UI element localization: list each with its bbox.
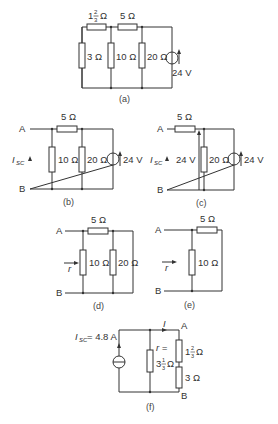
label-r2: 5 Ω [120, 10, 135, 21]
resistor-10-ohm [189, 250, 195, 275]
resistor-5-ohm [197, 227, 217, 233]
caption-b: (b) [63, 197, 74, 207]
svg-text:Ω: Ω [100, 10, 107, 21]
label-r3: 3 Ω [87, 51, 102, 62]
svg-text:r: r [165, 262, 169, 273]
svg-text:A: A [157, 123, 164, 134]
label-r1-whole: 1 [88, 10, 93, 21]
circuit-d: A B r 5 Ω 10 Ω 20 Ω (d) [56, 214, 138, 311]
circuit-c: A B I SC 5 Ω 24 V 20 Ω 24 V (c) [150, 111, 264, 208]
svg-text:24 V: 24 V [176, 154, 196, 165]
resistor-3-ohm [176, 367, 182, 388]
svg-text:I: I [75, 331, 78, 342]
label-r4: 10 Ω [116, 51, 136, 62]
svg-text:r: r [68, 263, 72, 274]
svg-text:20 Ω: 20 Ω [87, 154, 107, 165]
svg-text:20 Ω: 20 Ω [209, 154, 229, 165]
svg-text:SC: SC [16, 160, 25, 166]
svg-text:3: 3 [191, 353, 194, 359]
caption-f: (f) [146, 402, 155, 412]
resistor-5-ohm [175, 126, 195, 132]
circuit-b: A B I SC 5 Ω 10 Ω 20 Ω 24 V (b) [12, 111, 143, 207]
svg-text:5 Ω: 5 Ω [91, 214, 106, 225]
svg-text:B: B [56, 287, 62, 298]
circuit-a: 1 2 3 Ω 5 Ω 3 Ω 10 Ω 20 Ω 24 V (a) [79, 9, 192, 104]
svg-text:10 Ω: 10 Ω [58, 154, 78, 165]
svg-text:3: 3 [156, 358, 161, 369]
caption-e: (e) [184, 300, 195, 310]
resistor-10-ohm [49, 147, 55, 172]
resistor-10-ohm [108, 43, 114, 68]
caption-d: (d) [93, 301, 104, 311]
svg-text:r =: r = [156, 342, 168, 353]
svg-text:3: 3 [94, 17, 98, 23]
svg-text:5 Ω: 5 Ω [61, 111, 76, 122]
svg-text:B: B [157, 184, 163, 195]
resistor-5-ohm [118, 24, 137, 30]
svg-text:5 Ω: 5 Ω [177, 111, 192, 122]
svg-text:= 4.8 A: = 4.8 A [87, 331, 118, 342]
svg-text:I: I [12, 154, 15, 165]
svg-text:Ω: Ω [196, 346, 203, 357]
circuit-e: A B r 5 Ω 10 Ω (e) [155, 213, 222, 310]
svg-text:A: A [155, 224, 162, 235]
svg-text:B: B [155, 285, 161, 296]
resistor-20-ohm [201, 147, 207, 172]
caption-a: (a) [119, 94, 130, 104]
svg-text:2: 2 [94, 9, 98, 15]
resistor-r-3-1-3-ohm [147, 350, 153, 372]
svg-text:B: B [181, 390, 187, 401]
label-r5: 20 Ω [147, 51, 167, 62]
circuit-figure: 1 2 3 Ω 5 Ω 3 Ω 10 Ω 20 Ω 24 V (a) A B I… [0, 0, 278, 424]
svg-text:3: 3 [162, 365, 165, 371]
svg-text:1: 1 [162, 357, 165, 363]
svg-text:Ω: Ω [167, 358, 174, 369]
caption-c: (c) [196, 198, 207, 208]
node-a: A [19, 123, 26, 134]
svg-text:2: 2 [191, 345, 194, 351]
resistor-1-2-3-ohm [176, 340, 182, 362]
resistor-20-ohm [79, 147, 85, 172]
svg-text:A: A [181, 320, 188, 331]
circuit-f: A B I SC = 4.8 A I r = 3 1 3 Ω 1 2 3 Ω 3… [75, 318, 203, 412]
resistor-5-ohm [57, 126, 77, 132]
arrow-icon [172, 260, 177, 264]
resistor-20-ohm [139, 43, 145, 68]
svg-text:I: I [163, 318, 166, 329]
svg-text:24 V: 24 V [123, 154, 143, 165]
resistor-5-ohm [88, 228, 108, 234]
svg-text:5 Ω: 5 Ω [200, 213, 215, 224]
svg-text:24 V: 24 V [244, 154, 264, 165]
resistor-3-ohm [79, 43, 85, 68]
svg-text:10 Ω: 10 Ω [198, 257, 218, 268]
svg-text:10 Ω: 10 Ω [89, 257, 109, 268]
svg-text:I: I [150, 154, 153, 165]
svg-text:20 Ω: 20 Ω [118, 257, 138, 268]
node-b: B [19, 183, 25, 194]
resistor-1-2-3-ohm [87, 24, 106, 30]
arrow-icon [74, 261, 79, 265]
svg-text:3 Ω: 3 Ω [185, 372, 200, 383]
label-source: 24 V [172, 67, 192, 78]
resistor-20-ohm [110, 250, 116, 275]
svg-text:A: A [56, 225, 63, 236]
svg-text:SC: SC [154, 160, 163, 166]
resistor-10-ohm [80, 250, 86, 275]
svg-text:1: 1 [185, 346, 190, 357]
